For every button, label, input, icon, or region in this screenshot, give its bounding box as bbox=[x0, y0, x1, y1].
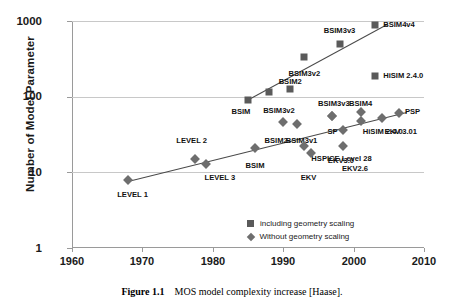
point-label-bsim3v3: BSIM3v3 bbox=[318, 100, 350, 108]
x-tick-1970: 1970 bbox=[112, 256, 172, 267]
x-axis-line bbox=[72, 247, 424, 248]
data-point-bsim3v2 bbox=[301, 54, 308, 61]
x-tickmark-2000 bbox=[354, 248, 355, 252]
legend-label-including: including geometry scaling bbox=[260, 220, 354, 228]
point-label-bsim: BSIM bbox=[231, 108, 250, 116]
point-label-psp: PSP bbox=[405, 108, 420, 116]
data-point-bsim3v2 bbox=[266, 89, 273, 96]
x-tick-2000: 2000 bbox=[324, 256, 384, 267]
data-point-bsim3v1 bbox=[292, 119, 302, 129]
y-tickmark-10 bbox=[67, 172, 72, 173]
y-tick-1: 1 bbox=[0, 243, 42, 255]
point-label-level-1: LEVEL 1 bbox=[117, 191, 148, 199]
data-point-bsim4v4 bbox=[371, 22, 378, 29]
data-point-level-1 bbox=[123, 175, 133, 185]
legend-entry-including-geometry-scaling: including geometry scaling bbox=[247, 218, 407, 229]
point-label-level-2: LEVEL 2 bbox=[176, 137, 207, 145]
diamond-marker-icon bbox=[246, 232, 254, 240]
figure-caption: Figure 1.1MOS model complexity increase … bbox=[0, 286, 464, 297]
data-point-bsim3v3 bbox=[336, 40, 343, 47]
x-tick-2010: 2010 bbox=[394, 256, 454, 267]
point-label-sp: SP bbox=[327, 128, 337, 136]
y-axis-line bbox=[72, 21, 73, 248]
x-tickmark-2010 bbox=[424, 248, 425, 252]
data-point-bsim4 bbox=[356, 107, 366, 117]
y-axis-title: Number of Model Parameter bbox=[24, 14, 36, 214]
gridline-10 bbox=[72, 172, 424, 173]
x-tick-1960: 1960 bbox=[42, 256, 102, 267]
legend-label-without: Without geometry scaling bbox=[260, 233, 350, 241]
data-point-psp bbox=[394, 109, 404, 119]
point-label-bsim: BSIM bbox=[246, 162, 265, 170]
legend: including geometry scaling Without geome… bbox=[247, 218, 407, 244]
y-tickmark-1000 bbox=[67, 21, 72, 22]
data-point-bsim3v3 bbox=[328, 111, 338, 121]
y-tick-100: 100 bbox=[0, 91, 42, 103]
data-point-ekv-3-01 bbox=[377, 113, 387, 123]
data-point-bsim2 bbox=[287, 86, 294, 93]
point-label-ekv2-6: EKV2.6 bbox=[342, 165, 368, 173]
data-point-hisim-2-4-0 bbox=[371, 73, 378, 80]
square-marker-icon bbox=[247, 220, 254, 227]
data-point-ekv2-6 bbox=[338, 141, 348, 151]
point-label-bsim3v3: BSIM3v3 bbox=[324, 27, 356, 35]
x-tickmark-1990 bbox=[283, 248, 284, 252]
point-label-bsim2: BSIM2 bbox=[265, 137, 288, 145]
plot-area: BSIMBSIM3v2BSIM2BSIM3v2BSIM3v3BSIM4v4HiS… bbox=[72, 21, 424, 248]
data-point-bsim bbox=[245, 97, 252, 104]
x-tickmark-1960 bbox=[72, 248, 73, 252]
point-label-bsim4v4: BSIM4v4 bbox=[383, 21, 415, 29]
point-label-bsim2: BSIM2 bbox=[279, 78, 302, 86]
data-point-bsim2 bbox=[278, 117, 288, 127]
figure-number: Figure 1.1 bbox=[121, 286, 164, 297]
y-tickmark-100 bbox=[67, 97, 72, 98]
point-label-ekv: EKV bbox=[301, 174, 317, 182]
point-label-level-3: LEVEL 3 bbox=[204, 174, 235, 182]
point-label-bsim3v2: BSIM3v2 bbox=[263, 107, 295, 115]
y-tick-10: 10 bbox=[0, 167, 42, 179]
y-tick-1000: 1000 bbox=[0, 16, 42, 28]
point-label-ekv-3-01: EKV 3.01 bbox=[385, 128, 418, 136]
x-tick-1990: 1990 bbox=[253, 256, 313, 267]
point-label-bsim3v2: BSIM3v2 bbox=[288, 70, 320, 78]
legend-entry-without-geometry-scaling: Without geometry scaling bbox=[247, 231, 407, 242]
point-label-hisim-2-4-0: HiSIM 2.4.0 bbox=[383, 72, 423, 80]
x-tick-1980: 1980 bbox=[183, 256, 243, 267]
point-label-bsim4: BSIM4 bbox=[349, 100, 372, 108]
figure-caption-text: MOS model complexity increase [Haase]. bbox=[175, 286, 343, 297]
x-tickmark-1970 bbox=[142, 248, 143, 252]
figure-container: Number of Model Parameter 1000 100 10 1 … bbox=[0, 0, 464, 306]
x-tickmark-1980 bbox=[213, 248, 214, 252]
